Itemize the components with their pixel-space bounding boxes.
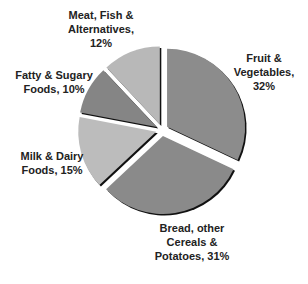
slice-label: Milk & DairyFoods, 15% xyxy=(21,150,85,176)
slice-label: Bread, otherCereals &Potatoes, 31% xyxy=(155,222,230,262)
slice-label: Meat, Fish &Alternatives,12% xyxy=(68,9,134,49)
pie-chart-svg: Fruit &Vegetables,32%Bread, otherCereals… xyxy=(0,0,308,284)
slice-label: Fatty & SugaryFoods, 10% xyxy=(15,69,94,95)
slice-label: Fruit &Vegetables,32% xyxy=(234,52,295,92)
pie-chart: Fruit &Vegetables,32%Bread, otherCereals… xyxy=(0,0,308,284)
